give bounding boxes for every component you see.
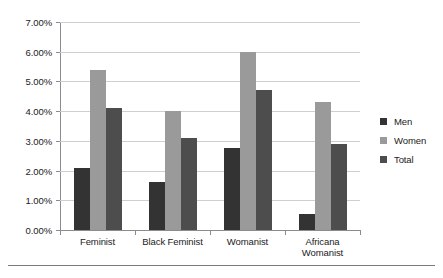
y-axis-tick-label: 7.00% (26, 17, 52, 28)
bar-group (135, 22, 210, 230)
x-axis-separator (285, 230, 286, 235)
category-label-line: Womanist (210, 236, 285, 247)
x-axis-separator (135, 230, 136, 235)
bar-women[interactable] (240, 52, 256, 230)
bottom-divider (8, 265, 435, 266)
bar-group-bars (210, 22, 285, 230)
x-axis-separator (360, 230, 361, 235)
legend-item-women[interactable]: Women (380, 131, 426, 150)
y-axis-tick-label: 6.00% (26, 46, 52, 57)
legend-label: Total (394, 154, 414, 165)
bar-total[interactable] (256, 90, 272, 230)
x-axis-category-label: Black Feminist (135, 236, 210, 247)
y-axis-tick-label: 0.00% (26, 225, 52, 236)
bar-men[interactable] (149, 182, 165, 230)
bar-women[interactable] (165, 111, 181, 230)
y-axis-tick-label: 5.00% (26, 76, 52, 87)
legend-label: Women (394, 135, 426, 146)
category-label-line: Africana (285, 236, 360, 247)
x-axis-category-label: Womanist (210, 236, 285, 247)
legend-label: Men (394, 116, 412, 127)
bar-total[interactable] (181, 138, 197, 230)
category-label-line: Black Feminist (135, 236, 210, 247)
bar-group (60, 22, 135, 230)
bar-men[interactable] (74, 168, 90, 230)
bar-group-bars (285, 22, 360, 230)
x-axis-category-label: AfricanaWomanist (285, 236, 360, 258)
bar-total[interactable] (106, 108, 122, 230)
bar-group-bars (135, 22, 210, 230)
x-axis-separator (60, 230, 61, 235)
y-axis-tick-label: 2.00% (26, 165, 52, 176)
bar-chart: 0.00%1.00%2.00%3.00%4.00%5.00%6.00%7.00%… (0, 0, 443, 278)
bar-total[interactable] (331, 144, 347, 230)
bar-men[interactable] (224, 148, 240, 230)
category-label-line: Womanist (285, 247, 360, 258)
legend-item-total[interactable]: Total (380, 150, 426, 169)
x-axis-category-label: Feminist (60, 236, 135, 247)
bar-women[interactable] (90, 70, 106, 230)
bar-group (210, 22, 285, 230)
chart-legend: MenWomenTotal (380, 112, 426, 169)
category-label-line: Feminist (60, 236, 135, 247)
bar-women[interactable] (315, 102, 331, 230)
bar-men[interactable] (299, 214, 315, 230)
legend-swatch-icon (380, 156, 387, 163)
bar-group (285, 22, 360, 230)
bar-group-bars (60, 22, 135, 230)
plot-area: 0.00%1.00%2.00%3.00%4.00%5.00%6.00%7.00% (60, 22, 360, 230)
y-axis-tick-label: 4.00% (26, 106, 52, 117)
x-axis-separator (210, 230, 211, 235)
legend-swatch-icon (380, 118, 387, 125)
legend-item-men[interactable]: Men (380, 112, 426, 131)
y-axis-tick-label: 3.00% (26, 135, 52, 146)
legend-swatch-icon (380, 137, 387, 144)
y-axis-tick-label: 1.00% (26, 195, 52, 206)
